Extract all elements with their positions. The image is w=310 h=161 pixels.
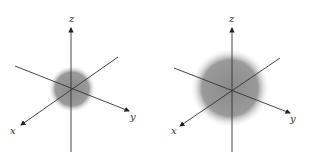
x-label: x <box>171 125 177 136</box>
panel-small-sphere: z y x <box>10 13 136 152</box>
panel-large-sphere: z y x <box>171 13 296 152</box>
z-label: z <box>228 13 235 24</box>
y-label: y <box>289 113 296 124</box>
x-label: x <box>10 125 16 136</box>
y-label: y <box>129 111 136 122</box>
figure: z y x z y x <box>0 0 310 161</box>
charge-cloud-large <box>190 48 270 128</box>
z-label: z <box>68 13 75 24</box>
